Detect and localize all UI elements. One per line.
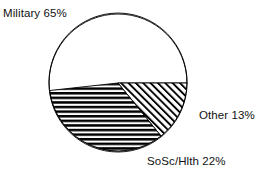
pie-label-military: Military 65%	[3, 7, 67, 20]
pie-label-sosc-hlth: SoSc/Hlth 22%	[147, 155, 226, 168]
pie-chart-graphic	[0, 0, 263, 175]
pie-chart-figure: Military 65% Other 13% SoSc/Hlth 22%	[0, 0, 263, 175]
pie-label-other: Other 13%	[199, 109, 255, 122]
